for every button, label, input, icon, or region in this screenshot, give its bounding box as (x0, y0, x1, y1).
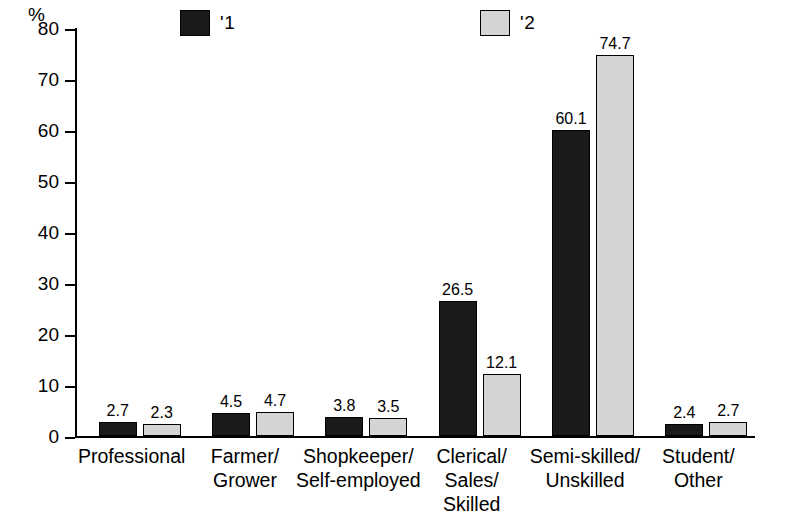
x-axis-category-label: Student/Other (622, 444, 775, 492)
bar-group: 60.174.7 (552, 28, 634, 436)
bar-group: 3.83.5 (325, 28, 407, 436)
y-axis-tick-label: 80 (38, 18, 59, 40)
x-axis-category-label-line: Student/ (622, 444, 775, 468)
y-axis-tick-label: 20 (38, 324, 59, 346)
x-axis-category-label-line: Skilled (395, 492, 548, 516)
bar: 3.8 (325, 417, 363, 436)
bar-value-label: 3.5 (377, 398, 399, 416)
bar: 2.7 (709, 422, 747, 436)
bar-chart: '1 '2 % 010203040506070802.72.34.54.73.8… (0, 0, 809, 528)
bar-value-label: 26.5 (442, 281, 473, 299)
bar-value-label: 2.3 (151, 404, 173, 422)
y-axis-tick: 60 (65, 131, 75, 133)
y-axis-tick-label: 30 (38, 273, 59, 295)
bar-group: 2.42.7 (665, 28, 747, 436)
bar-group: 4.54.7 (212, 28, 294, 436)
x-axis-category-label-line: Other (622, 468, 775, 492)
y-axis-tick: 0 (65, 437, 75, 439)
y-axis-tick: 40 (65, 233, 75, 235)
bar: 2.4 (665, 424, 703, 436)
bar-value-label: 3.8 (333, 397, 355, 415)
bar-value-label: 74.7 (599, 35, 630, 53)
y-axis-line (75, 28, 77, 438)
y-axis-tick: 10 (65, 386, 75, 388)
y-axis-tick-label: 10 (38, 375, 59, 397)
bar: 26.5 (439, 301, 477, 436)
y-axis-tick: 50 (65, 182, 75, 184)
bar-value-label: 2.4 (673, 404, 695, 422)
y-axis-tick: 20 (65, 335, 75, 337)
y-axis-tick: 30 (65, 284, 75, 286)
bar: 3.5 (369, 418, 407, 436)
bar: 12.1 (483, 374, 521, 436)
bar: 60.1 (552, 130, 590, 437)
bar-value-label: 2.7 (717, 402, 739, 420)
plot-area: 010203040506070802.72.34.54.73.83.526.51… (75, 28, 755, 438)
bar-value-label: 4.5 (220, 393, 242, 411)
y-axis-tick-label: 70 (38, 69, 59, 91)
y-axis-tick-label: 40 (38, 222, 59, 244)
bar-value-label: 2.7 (107, 402, 129, 420)
bar: 74.7 (596, 55, 634, 436)
y-axis-tick: 70 (65, 80, 75, 82)
x-axis-line (75, 436, 755, 438)
bar: 4.5 (212, 413, 250, 436)
bar-value-label: 12.1 (486, 354, 517, 372)
bar-value-label: 4.7 (264, 392, 286, 410)
bar-value-label: 60.1 (555, 110, 586, 128)
y-axis-tick-label: 60 (38, 120, 59, 142)
y-axis-tick-label: 50 (38, 171, 59, 193)
y-axis-tick: 80 (65, 29, 75, 31)
bar: 4.7 (256, 412, 294, 436)
bar: 2.3 (143, 424, 181, 436)
bar-group: 2.72.3 (99, 28, 181, 436)
bar-group: 26.512.1 (439, 28, 521, 436)
bar: 2.7 (99, 422, 137, 436)
